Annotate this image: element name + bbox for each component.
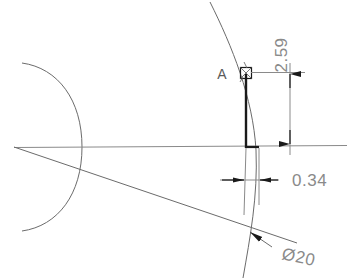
drawing-svg: A 2.59 0.34 Ø20 xyxy=(0,0,347,279)
horizontal-dimension-label: 0.34 xyxy=(292,171,327,190)
detail-callout-a-label: A xyxy=(217,66,227,82)
diameter-leader-line xyxy=(250,232,272,247)
technical-drawing-canvas: A 2.59 0.34 Ø20 xyxy=(0,0,347,279)
primary-projection-line xyxy=(244,148,246,215)
horizontal-centerline xyxy=(14,146,347,148)
vertical-dimension-label: 2.59 xyxy=(272,37,291,72)
right-profile-arc xyxy=(210,2,256,278)
diameter-dimension-label: Ø20 xyxy=(280,244,317,270)
